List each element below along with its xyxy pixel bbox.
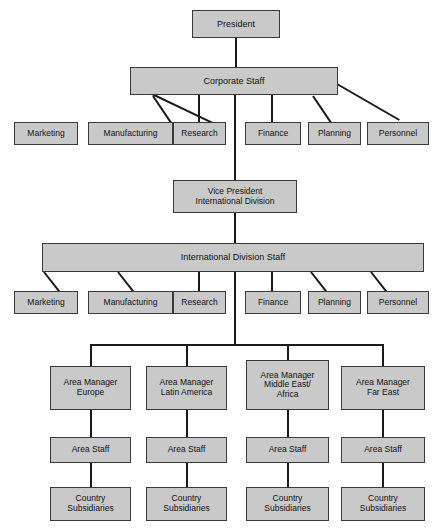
node-president-label: President bbox=[217, 19, 255, 29]
connector-corporate-to-planning bbox=[312, 95, 332, 123]
node-corporate-finance[interactable]: Finance bbox=[245, 122, 301, 145]
node-area-staff-far-east[interactable]: Area Staff bbox=[341, 437, 425, 463]
connector-division-to-planning bbox=[310, 271, 328, 293]
connector-area-staff-middle-east-africa-to-subsidiaries bbox=[287, 462, 289, 488]
node-corporate-marketing-label: Marketing bbox=[27, 129, 64, 139]
node-division-finance-label: Finance bbox=[258, 298, 288, 308]
node-area-manager-far-east[interactable]: Area Manager Far East bbox=[341, 366, 425, 410]
node-corporate-personnel[interactable]: Personnel bbox=[367, 122, 429, 145]
node-area-staff-latin-america[interactable]: Area Staff bbox=[146, 437, 227, 463]
node-area-staff-europe[interactable]: Area Staff bbox=[50, 437, 131, 463]
node-area-staff-middle-east-africa-label: Area Staff bbox=[269, 445, 307, 455]
node-country-subsidiaries-far-east-label: Country Subsidiaries bbox=[360, 494, 406, 513]
node-corporate-research[interactable]: Research bbox=[173, 122, 226, 145]
connector-corporate-to-research bbox=[198, 94, 200, 123]
node-division-manufacturing-label: Manufacturing bbox=[104, 298, 158, 308]
node-corporate-finance-label: Finance bbox=[258, 129, 288, 139]
node-area-manager-europe[interactable]: Area Manager Europe bbox=[50, 366, 131, 410]
node-area-staff-europe-label: Area Staff bbox=[72, 445, 110, 455]
node-corporate-staff-label: Corporate Staff bbox=[204, 76, 265, 86]
node-division-personnel-label: Personnel bbox=[379, 298, 417, 308]
node-area-staff-far-east-label: Area Staff bbox=[364, 445, 402, 455]
node-division-research[interactable]: Research bbox=[173, 291, 226, 314]
node-area-manager-middle-east-africa[interactable]: Area Manager Middle East/ Africa bbox=[246, 360, 329, 410]
node-corporate-staff[interactable]: Corporate Staff bbox=[130, 67, 338, 95]
node-division-personnel[interactable]: Personnel bbox=[367, 291, 429, 314]
connector-area-manager-middle-east-africa-to-staff bbox=[287, 409, 289, 438]
node-area-staff-latin-america-label: Area Staff bbox=[168, 445, 206, 455]
connector-area-manager-bus bbox=[90, 344, 384, 346]
node-division-marketing-label: Marketing bbox=[27, 298, 64, 308]
node-country-subsidiaries-far-east[interactable]: Country Subsidiaries bbox=[341, 487, 425, 521]
node-international-division-staff-label: International Division Staff bbox=[181, 252, 285, 262]
connector-division-to-personnel bbox=[370, 271, 388, 293]
connector-division-to-research bbox=[198, 271, 200, 291]
node-division-manufacturing[interactable]: Manufacturing bbox=[88, 291, 173, 314]
node-area-manager-far-east-label: Area Manager Far East bbox=[356, 378, 410, 397]
node-corporate-planning[interactable]: Planning bbox=[308, 122, 361, 145]
node-area-staff-middle-east-africa[interactable]: Area Staff bbox=[246, 437, 329, 463]
node-corporate-research-label: Research bbox=[181, 129, 217, 139]
connector-corporate-to-personnel bbox=[337, 83, 400, 121]
connector-division-to-manufacturing bbox=[117, 271, 135, 293]
node-division-finance[interactable]: Finance bbox=[245, 291, 301, 314]
node-corporate-personnel-label: Personnel bbox=[379, 129, 417, 139]
connector-area-staff-latin-america-to-subsidiaries bbox=[186, 462, 188, 488]
node-vice-president-label: Vice President International Division bbox=[196, 187, 275, 206]
node-division-marketing[interactable]: Marketing bbox=[14, 291, 78, 314]
node-corporate-manufacturing[interactable]: Manufacturing bbox=[88, 122, 173, 145]
connector-vice-president-to-division-staff bbox=[234, 212, 236, 244]
org-chart-canvas: President Corporate Staff Marketing Manu… bbox=[0, 0, 443, 532]
connector-president-to-corporate-staff bbox=[235, 37, 237, 68]
node-area-manager-latin-america-label: Area Manager Latin America bbox=[160, 378, 214, 397]
connector-area-staff-far-east-to-subsidiaries bbox=[382, 462, 384, 488]
connector-bus-drop-europe bbox=[90, 344, 92, 367]
node-country-subsidiaries-middle-east-africa[interactable]: Country Subsidiaries bbox=[246, 487, 329, 521]
node-division-research-label: Research bbox=[181, 298, 217, 308]
node-country-subsidiaries-latin-america[interactable]: Country Subsidiaries bbox=[146, 487, 227, 521]
node-corporate-planning-label: Planning bbox=[318, 129, 351, 139]
node-vice-president-international-division[interactable]: Vice President International Division bbox=[173, 180, 297, 213]
node-country-subsidiaries-europe[interactable]: Country Subsidiaries bbox=[50, 487, 131, 521]
node-international-division-staff[interactable]: International Division Staff bbox=[42, 243, 424, 272]
node-area-manager-europe-label: Area Manager Europe bbox=[64, 378, 118, 397]
node-country-subsidiaries-middle-east-africa-label: Country Subsidiaries bbox=[264, 494, 310, 513]
connector-division-to-marketing bbox=[43, 271, 61, 293]
connector-bus-drop-far-east bbox=[382, 344, 384, 367]
connector-division-to-finance bbox=[271, 271, 273, 291]
node-corporate-manufacturing-label: Manufacturing bbox=[104, 129, 158, 139]
node-division-planning[interactable]: Planning bbox=[308, 291, 361, 314]
connector-area-manager-far-east-to-staff bbox=[382, 409, 384, 438]
node-country-subsidiaries-latin-america-label: Country Subsidiaries bbox=[163, 494, 209, 513]
node-area-manager-middle-east-africa-label: Area Manager Middle East/ Africa bbox=[261, 371, 315, 400]
connector-bus-drop-latin-america bbox=[186, 344, 188, 367]
node-division-planning-label: Planning bbox=[318, 298, 351, 308]
connector-area-manager-latin-america-to-staff bbox=[186, 409, 188, 438]
node-president[interactable]: President bbox=[192, 10, 280, 38]
connector-division-staff-to-area-bus bbox=[234, 271, 236, 345]
connector-corporate-staff-to-vice-president bbox=[234, 94, 236, 181]
node-area-manager-latin-america[interactable]: Area Manager Latin America bbox=[146, 366, 227, 410]
connector-area-manager-europe-to-staff bbox=[90, 409, 92, 438]
node-corporate-marketing[interactable]: Marketing bbox=[14, 122, 78, 145]
connector-corporate-to-finance bbox=[271, 94, 273, 123]
connector-area-staff-europe-to-subsidiaries bbox=[90, 462, 92, 488]
node-country-subsidiaries-europe-label: Country Subsidiaries bbox=[67, 494, 113, 513]
